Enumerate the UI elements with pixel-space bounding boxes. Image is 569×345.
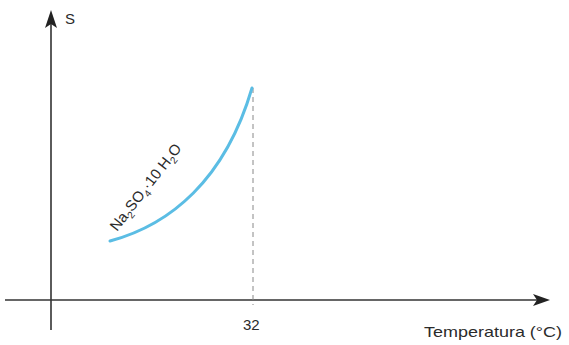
x-tick-32: 32	[243, 316, 260, 333]
y-axis-label: S	[65, 10, 75, 27]
curve-label: Na2SO4·10 H2O	[106, 140, 187, 236]
x-axis-label: Temperatura (°C)	[424, 323, 562, 340]
solubility-chart: S 32 Temperatura (°C) Na2SO4·10 H2O	[0, 0, 569, 345]
